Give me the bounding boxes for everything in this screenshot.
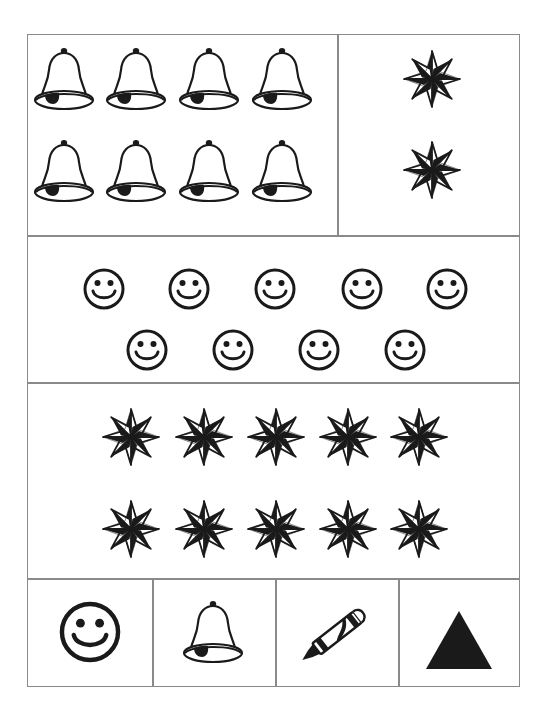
smiley-icon bbox=[212, 329, 254, 371]
bell-icon bbox=[106, 140, 166, 203]
answer-cell-crayon[interactable] bbox=[276, 579, 398, 686]
answer-cell-triangle[interactable] bbox=[399, 579, 519, 686]
bell-icon bbox=[34, 140, 94, 203]
star-icon bbox=[319, 408, 377, 466]
star-icon bbox=[102, 500, 160, 558]
smiley-icon bbox=[126, 329, 168, 371]
answer-cell-smiley[interactable] bbox=[28, 579, 152, 686]
star-icon bbox=[175, 500, 233, 558]
bell-icon bbox=[183, 601, 243, 664]
bell-icon bbox=[252, 48, 312, 111]
smiley-icon bbox=[83, 268, 125, 310]
bell-icon bbox=[34, 48, 94, 111]
star-icon bbox=[102, 408, 160, 466]
star-icon bbox=[403, 141, 461, 199]
smiley-icon bbox=[341, 268, 383, 310]
star-icon bbox=[247, 500, 305, 558]
star-icon bbox=[390, 500, 448, 558]
smiley-icon bbox=[59, 601, 121, 663]
counting-worksheet bbox=[0, 0, 548, 709]
smiley-icon bbox=[426, 268, 468, 310]
bell-icon bbox=[106, 48, 166, 111]
star-icon bbox=[403, 50, 461, 108]
smiley-icon bbox=[168, 268, 210, 310]
answer-cell-bell[interactable] bbox=[153, 579, 275, 686]
top-section-divider bbox=[337, 34, 339, 236]
smiley-icon bbox=[254, 268, 296, 310]
crayon-icon bbox=[296, 597, 378, 669]
smiley-icon bbox=[384, 329, 426, 371]
divider-1 bbox=[27, 235, 520, 237]
star-icon bbox=[390, 408, 448, 466]
bell-icon bbox=[179, 48, 239, 111]
bell-icon bbox=[179, 140, 239, 203]
divider-2 bbox=[27, 382, 520, 384]
star-icon bbox=[175, 408, 233, 466]
bell-icon bbox=[252, 140, 312, 203]
star-icon bbox=[319, 500, 377, 558]
smiley-icon bbox=[298, 329, 340, 371]
triangle-icon bbox=[425, 610, 493, 670]
star-icon bbox=[247, 408, 305, 466]
